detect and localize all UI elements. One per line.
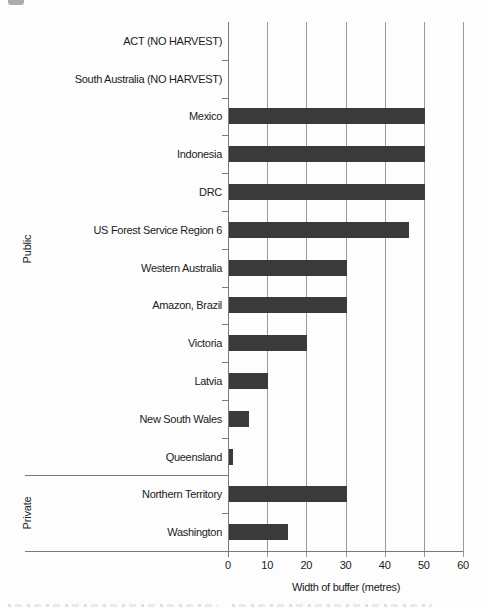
x-tick-label: 40: [370, 559, 400, 571]
scanned-chart-page: ACT (NO HARVEST)South Australia (NO HARV…: [0, 0, 489, 609]
y-axis-tick: [222, 211, 228, 212]
bar: [229, 449, 233, 465]
vertical-gridline: [267, 22, 268, 557]
y-axis-tick: [222, 438, 228, 439]
cut-off-caption-bottom-left: [8, 604, 218, 607]
vertical-gridline: [463, 22, 464, 557]
y-axis-tick: [222, 98, 228, 99]
category-label: Amazon, Brazil: [152, 287, 222, 325]
y-axis-tick: [222, 135, 228, 136]
bar: [229, 524, 288, 540]
category-label: Indonesia: [177, 135, 222, 173]
x-tick-label: 50: [409, 559, 439, 571]
bar: [229, 486, 347, 502]
category-label: Washington: [167, 513, 222, 551]
x-tick-label: 20: [291, 559, 321, 571]
group-label-public: Public: [20, 209, 34, 289]
x-tick-label: 10: [252, 559, 282, 571]
y-axis-tick: [222, 400, 228, 401]
category-label: DRC: [199, 173, 222, 211]
x-tick-label: 0: [213, 559, 243, 571]
category-label: Victoria: [188, 324, 222, 362]
x-axis-title: Width of buffer (metres): [266, 581, 426, 593]
bar: [229, 411, 249, 427]
category-label: South Australia (NO HARVEST): [75, 60, 222, 98]
vertical-gridline: [306, 22, 307, 557]
bar: [229, 373, 268, 389]
group-divider-line: [25, 475, 228, 476]
bar: [229, 297, 347, 313]
bar: [229, 260, 347, 276]
y-axis-tick: [222, 513, 228, 514]
vertical-gridline: [424, 22, 425, 557]
bar: [229, 335, 307, 351]
category-label: Northern Territory: [142, 475, 222, 513]
category-label: New South Wales: [139, 400, 222, 438]
y-axis-tick: [222, 173, 228, 174]
y-axis-tick: [222, 249, 228, 250]
cut-off-caption-bottom-right: [232, 604, 432, 607]
category-label: Queensland: [166, 438, 222, 476]
y-axis-line: [228, 22, 229, 557]
scan-artifact-top-left: [8, 0, 24, 5]
vertical-gridline: [346, 22, 347, 557]
bar: [229, 108, 425, 124]
y-axis-tick: [222, 324, 228, 325]
category-label: Latvia: [194, 362, 222, 400]
y-axis-tick: [222, 287, 228, 288]
x-tick-label: 60: [448, 559, 478, 571]
bar: [229, 184, 425, 200]
y-axis-tick: [222, 60, 228, 61]
category-label: US Forest Service Region 6: [93, 211, 222, 249]
category-label: Western Australia: [141, 249, 222, 287]
x-axis-line: [25, 551, 463, 552]
category-label: ACT (NO HARVEST): [123, 22, 222, 60]
y-axis-tick: [222, 362, 228, 363]
x-tick-label: 30: [331, 559, 361, 571]
bar: [229, 222, 409, 238]
category-label: Mexico: [189, 98, 222, 136]
bar: [229, 146, 425, 162]
group-label-private: Private: [20, 473, 34, 553]
vertical-gridline: [385, 22, 386, 557]
